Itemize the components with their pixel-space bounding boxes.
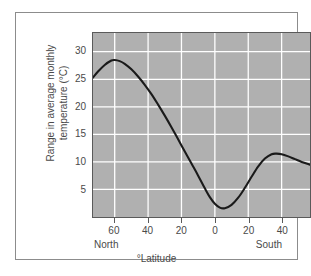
x-tick-mark xyxy=(282,218,283,223)
x-tick-mark xyxy=(114,218,115,223)
y-axis-tick-labels: 51015202530 xyxy=(56,32,86,218)
x-axis-title: °Latitude xyxy=(16,253,297,264)
x-tick-mark xyxy=(148,218,149,223)
x-tick-mark xyxy=(215,218,216,223)
figure: Range in average monthly temperature (°C… xyxy=(0,0,311,276)
y-tick-label: 30 xyxy=(60,46,86,56)
x-tick-mark xyxy=(249,218,250,223)
x-tick-label: 60 xyxy=(99,226,129,236)
x-tick-mark xyxy=(181,218,182,223)
y-tick-label: 5 xyxy=(60,185,86,195)
y-tick-label: 15 xyxy=(60,129,86,139)
temperature-range-curve xyxy=(93,60,310,209)
y-tick-label: 20 xyxy=(60,102,86,112)
y-tick-label: 10 xyxy=(60,157,86,167)
chart-outer-frame: Range in average monthly temperature (°C… xyxy=(15,12,298,260)
x-tick-label: 40 xyxy=(267,226,297,236)
x-tick-label: 20 xyxy=(166,226,196,236)
x-tick-label: 40 xyxy=(133,226,163,236)
data-series-line xyxy=(93,33,310,217)
y-tick-label: 25 xyxy=(60,74,86,84)
south-direction-label: South xyxy=(256,239,282,250)
north-direction-label: North xyxy=(94,239,118,250)
x-tick-label: 0 xyxy=(200,226,230,236)
x-tick-label: 20 xyxy=(234,226,264,236)
plot-panel xyxy=(92,32,311,218)
